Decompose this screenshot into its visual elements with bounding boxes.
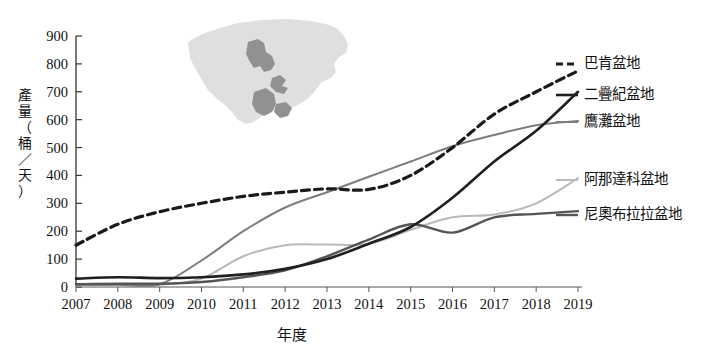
y-tick-label: 200 <box>28 224 68 238</box>
legend-swatches <box>556 64 578 215</box>
y-tick-label: 800 <box>28 57 68 71</box>
x-tick-label: 2019 <box>557 297 599 311</box>
y-tick-label: 0 <box>28 280 68 294</box>
y-tick-label: 500 <box>28 141 68 155</box>
y-tick-label: 700 <box>28 85 68 99</box>
x-axis-title-text: 年度 <box>277 323 307 344</box>
x-tick-label: 2008 <box>97 297 139 311</box>
us-map-inset <box>176 12 352 136</box>
x-tick-label: 2009 <box>139 297 181 311</box>
x-tick-label: 2015 <box>390 297 432 311</box>
x-tick-label: 2017 <box>473 297 515 311</box>
x-tick-label: 2016 <box>432 297 474 311</box>
legend-label-permian: 二疊紀盆地 <box>584 87 654 102</box>
y-tick-label: 100 <box>28 252 68 266</box>
y-tick-label: 900 <box>28 29 68 43</box>
chart-root: 產量（桶／天） 9008007006005004003002001000 200… <box>0 0 703 353</box>
x-tick-label: 2010 <box>181 297 223 311</box>
legend-label-anadarko: 阿那達科盆地 <box>584 172 668 187</box>
x-tick-label: 2014 <box>348 297 390 311</box>
legend-label-niobrara: 尼奧布拉拉盆地 <box>584 207 682 222</box>
legend-label-bakken: 巴肯盆地 <box>584 56 640 71</box>
x-tick-label: 2011 <box>222 297 264 311</box>
x-tick-label: 2012 <box>264 297 306 311</box>
x-tick-label: 2007 <box>55 297 97 311</box>
series-line-anadarko <box>76 178 578 285</box>
series-line-eagle-ford <box>76 121 578 286</box>
series-line-niobrara <box>76 211 578 284</box>
legend-label-eagle-ford: 鷹灘盆地 <box>584 114 640 129</box>
y-tick-label: 600 <box>28 113 68 127</box>
y-tick-label: 300 <box>28 196 68 210</box>
y-tick-label: 400 <box>28 168 68 182</box>
x-tick-label: 2018 <box>515 297 557 311</box>
x-axis-title: 年度 <box>0 323 703 344</box>
x-tick-label: 2013 <box>306 297 348 311</box>
